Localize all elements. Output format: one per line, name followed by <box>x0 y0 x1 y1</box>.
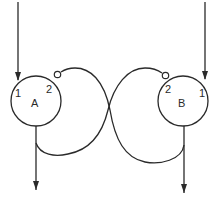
node-b-label: B <box>178 97 185 109</box>
arrowhead-icon <box>15 72 21 81</box>
node-a-label: A <box>31 97 39 109</box>
node-b: 2 1 B <box>158 76 208 126</box>
cross-coupled-circuit-diagram: 1 2 A 2 1 B <box>0 0 219 200</box>
arrowhead-icon <box>181 184 187 193</box>
node-a-port-2-label: 2 <box>46 83 52 95</box>
arrowhead-icon <box>33 181 39 190</box>
node-a: 1 2 A <box>11 76 61 126</box>
arrowhead-icon <box>202 71 208 80</box>
node-b-port-2-label: 2 <box>165 83 171 95</box>
inhibitory-synapse-b-icon <box>162 72 168 78</box>
input-arrow-b <box>202 2 208 80</box>
inhibitory-synapse-a-icon <box>54 71 60 77</box>
node-a-port-1-label: 1 <box>15 87 21 99</box>
output-arrow-a <box>33 126 39 190</box>
node-b-port-1-label: 1 <box>199 87 205 99</box>
output-arrow-b <box>181 126 187 193</box>
input-arrow-a <box>15 2 21 81</box>
